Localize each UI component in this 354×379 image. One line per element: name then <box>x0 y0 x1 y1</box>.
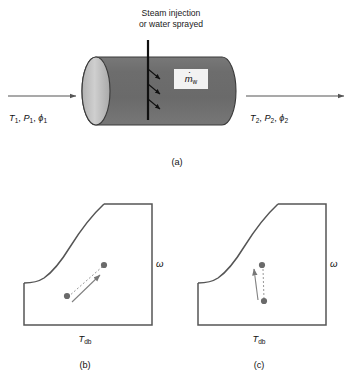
panel-c-x-axis-label: Tdb <box>234 333 284 344</box>
duct-inlet-face <box>82 57 110 125</box>
outlet-phi-sub: 2 <box>284 117 288 124</box>
injection-caption: Steam injectionor water sprayed <box>106 8 236 30</box>
panel-b-x-axis-label: Tdb <box>60 333 110 344</box>
panel-c-chart <box>190 195 340 335</box>
process-arrow-b <box>72 275 100 302</box>
panel-a-caption: (a) <box>147 157 207 167</box>
outlet-T-symbol: T <box>250 113 256 123</box>
saturation-curve-c <box>198 204 278 283</box>
process-dashed-line-c <box>263 269 264 299</box>
panel-b-y-axis-label: ω <box>156 258 163 269</box>
saturation-curve-b <box>24 204 104 283</box>
outlet-T-sub: 2 <box>256 117 260 124</box>
inlet-P-sub: 1 <box>30 117 34 124</box>
inlet-state-label: T1, P1, ϕ1 <box>9 113 47 123</box>
panel-b-caption: (b) <box>60 360 110 370</box>
panel-b-x-subscript: db <box>84 338 91 345</box>
injection-caption-line1: Steam injection <box>142 8 201 18</box>
inlet-T-symbol: T <box>9 113 15 123</box>
psychrometric-frame-b <box>24 204 152 325</box>
figure-container: Steam injectionor water sprayed ·mw T1, … <box>0 0 354 379</box>
process-arrow-c <box>254 269 258 300</box>
mass-flow-rate-label: ·mw <box>185 74 197 83</box>
injection-caption-line2: or water sprayed <box>139 19 203 29</box>
state-point-2-b <box>101 262 107 268</box>
state-point-1-c <box>261 298 267 304</box>
state-point-2-c <box>259 262 265 268</box>
outlet-P-sub: 2 <box>271 117 275 124</box>
duct-cylinder <box>82 57 236 125</box>
inlet-T-sub: 1 <box>15 117 19 124</box>
panel-b-chart <box>16 195 166 335</box>
outlet-P-symbol: P <box>264 113 270 123</box>
panel-c-caption: (c) <box>234 360 284 370</box>
panel-c-y-axis-label: ω <box>330 258 337 269</box>
inlet-P-symbol: P <box>23 113 29 123</box>
m-subscript: w <box>193 78 198 85</box>
mass-flow-rate-box: ·mw <box>174 69 208 89</box>
m-dot-accent: · <box>188 68 191 77</box>
state-point-1-b <box>64 293 70 299</box>
inlet-phi-sub: 1 <box>43 117 47 124</box>
process-dashed-line-b <box>68 267 102 297</box>
outlet-state-label: T2, P2, ϕ2 <box>250 113 288 123</box>
panel-c-x-subscript: db <box>258 338 265 345</box>
